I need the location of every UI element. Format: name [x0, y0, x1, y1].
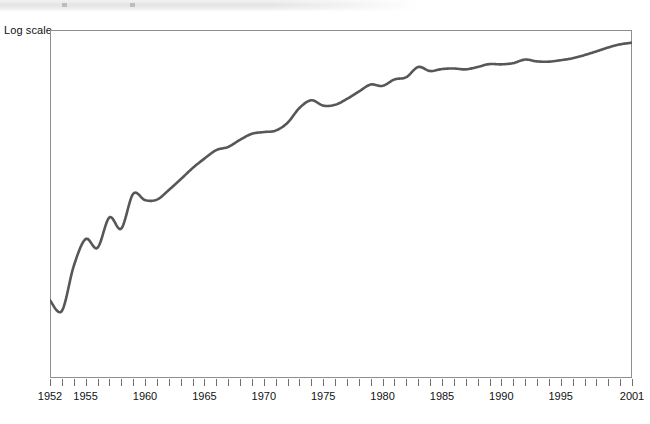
x-axis-tick — [240, 379, 241, 386]
x-axis-tick — [549, 379, 550, 386]
x-axis-tick — [288, 379, 289, 386]
x-axis-tick-label: 1952 — [38, 390, 62, 402]
x-axis-labels: 1952195519601965197019751980198519901995… — [0, 390, 650, 408]
x-axis-tick — [169, 379, 170, 386]
x-axis-tick — [121, 379, 122, 386]
x-axis-tick — [608, 379, 609, 386]
x-axis-tick-label: 1965 — [192, 390, 216, 402]
x-axis-tick — [62, 379, 63, 386]
x-axis-tick-label: 1975 — [311, 390, 335, 402]
x-axis-tick — [454, 379, 455, 386]
x-axis-tick — [311, 379, 312, 386]
x-axis-tick — [383, 379, 384, 386]
x-axis-tick — [133, 379, 134, 386]
x-axis-tick — [430, 379, 431, 386]
x-axis-tick — [632, 379, 633, 386]
x-axis-ticks — [50, 379, 632, 387]
y-axis-scale-note: Log scale — [4, 24, 52, 36]
x-axis-tick — [620, 379, 621, 386]
x-axis-tick — [98, 379, 99, 386]
x-axis-tick — [264, 379, 265, 386]
x-axis-tick — [335, 379, 336, 386]
x-axis-tick-label: 1960 — [133, 390, 157, 402]
line-chart-series — [50, 30, 632, 378]
x-axis-tick — [50, 379, 51, 386]
strip-mark-icon — [130, 3, 135, 7]
cropped-toolbar-strip — [0, 0, 420, 11]
x-axis-tick — [323, 379, 324, 386]
x-axis-tick — [537, 379, 538, 386]
x-axis-tick — [513, 379, 514, 386]
x-axis-tick — [442, 379, 443, 386]
x-axis-tick-label: 2001 — [620, 390, 644, 402]
x-axis-tick — [86, 379, 87, 386]
x-axis-tick — [157, 379, 158, 386]
x-axis-tick — [181, 379, 182, 386]
x-axis-tick — [585, 379, 586, 386]
x-axis-tick — [228, 379, 229, 386]
x-axis-tick — [525, 379, 526, 386]
x-axis-tick-label: 1970 — [252, 390, 276, 402]
x-axis-tick — [193, 379, 194, 386]
x-axis-tick — [561, 379, 562, 386]
x-axis-tick — [394, 379, 395, 386]
x-axis-tick — [145, 379, 146, 386]
x-axis-tick — [359, 379, 360, 386]
x-axis-tick-label: 1995 — [548, 390, 572, 402]
x-axis-tick — [204, 379, 205, 386]
x-axis-tick — [478, 379, 479, 386]
x-axis-tick — [216, 379, 217, 386]
x-axis-tick — [347, 379, 348, 386]
x-axis-tick-label: 1985 — [430, 390, 454, 402]
x-axis-tick — [276, 379, 277, 386]
x-axis-tick — [573, 379, 574, 386]
x-axis-tick-label: 1980 — [370, 390, 394, 402]
x-axis-tick — [418, 379, 419, 386]
x-axis-tick-label: 1990 — [489, 390, 513, 402]
x-axis-tick — [596, 379, 597, 386]
chart-page: Log scale 195219551960196519701975198019… — [0, 0, 650, 424]
x-axis-tick — [371, 379, 372, 386]
x-axis-tick — [490, 379, 491, 386]
x-axis-tick-label: 1955 — [73, 390, 97, 402]
strip-fade — [270, 0, 420, 11]
x-axis-tick — [501, 379, 502, 386]
x-axis-tick — [406, 379, 407, 386]
x-axis-tick — [109, 379, 110, 386]
x-axis-tick — [74, 379, 75, 386]
x-axis-tick — [299, 379, 300, 386]
x-axis-tick — [252, 379, 253, 386]
strip-mark-icon — [62, 3, 67, 7]
x-axis-tick — [466, 379, 467, 386]
